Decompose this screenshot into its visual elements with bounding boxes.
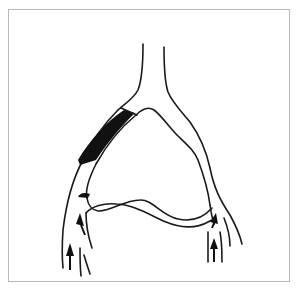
lower-connecting-vessel <box>86 198 214 227</box>
shaded-segment <box>78 110 135 165</box>
loop-inner-upper <box>136 108 210 205</box>
trunk-vessel <box>118 44 210 168</box>
arrow-up-icon <box>66 243 74 270</box>
left-branch <box>62 108 137 268</box>
curved-arrow-icon <box>78 193 90 198</box>
right-branch <box>210 168 242 244</box>
arrow-up-icon <box>76 213 85 235</box>
vascular-loop-diagram <box>0 0 297 300</box>
right-lower-branches <box>208 218 230 262</box>
arrow-up-icon <box>210 238 218 262</box>
